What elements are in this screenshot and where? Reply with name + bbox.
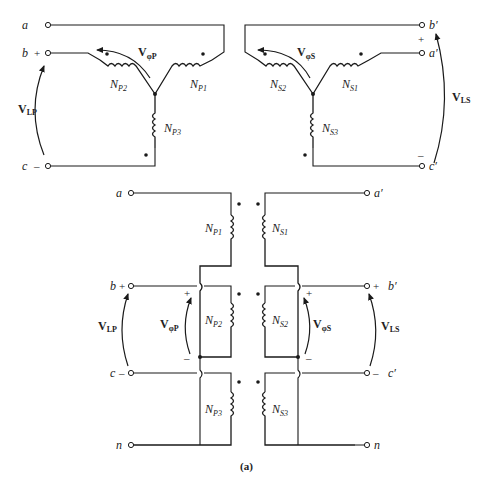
svg-text:+: + <box>184 287 190 299</box>
terminal-a-prime <box>419 50 424 55</box>
svg-text:c′: c′ <box>388 366 396 380</box>
line-voltage-label: VLS <box>452 90 471 105</box>
svg-text:–: – <box>118 367 125 379</box>
svg-text:NP1: NP1 <box>204 221 222 237</box>
line-voltage-label: VLP <box>18 102 37 117</box>
svg-text:NS1: NS1 <box>271 221 288 237</box>
polarity-dot <box>144 153 148 157</box>
phase-voltage-label: VφP <box>138 45 157 61</box>
svg-text:+: + <box>373 280 379 292</box>
svg-text:a′: a′ <box>374 186 383 200</box>
svg-text:VφS: VφS <box>313 317 332 333</box>
terminal-b-prime <box>364 283 369 288</box>
svg-text:–: – <box>183 352 190 364</box>
polarity-dot <box>105 52 109 56</box>
svg-text:b′: b′ <box>388 279 397 293</box>
terminal-a-prime <box>364 190 369 195</box>
svg-text:b: b <box>110 279 116 293</box>
winding-label-ns2: NS2 <box>269 77 286 93</box>
svg-text:+: + <box>306 287 312 299</box>
svg-text:NS3: NS3 <box>271 402 288 418</box>
terminal-a <box>45 22 50 27</box>
svg-text:NP3: NP3 <box>204 402 222 418</box>
polarity-dot <box>201 52 205 56</box>
terminal-label-a: a <box>22 18 28 32</box>
terminal-n <box>128 442 133 447</box>
svg-text:c: c <box>110 366 116 380</box>
terminal-c <box>45 163 50 168</box>
winding-label-np3: NP3 <box>163 121 181 137</box>
svg-text:n: n <box>374 438 380 452</box>
terminal-label-c-prime: c′ <box>429 159 437 173</box>
svg-text:VLS: VLS <box>381 319 400 334</box>
svg-text:+: + <box>119 280 125 292</box>
neutral-node <box>311 92 315 96</box>
terminal-label-c: c <box>22 159 28 173</box>
svg-text:n: n <box>116 438 122 452</box>
svg-text:–: – <box>417 149 424 161</box>
terminal-b <box>45 50 50 55</box>
winding-label-np2: NP2 <box>109 77 127 93</box>
svg-text:VφP: VφP <box>160 317 179 333</box>
svg-text:VLP: VLP <box>98 319 117 334</box>
svg-text:NP2: NP2 <box>204 313 222 329</box>
terminal-b-prime <box>419 22 424 27</box>
polarity-dot <box>359 52 363 56</box>
winding-schematic: a b + c – n a′ + b′ – c′ n NP1 NS1 NP2 N… <box>98 186 400 473</box>
primary-wye: a b + c – NP2 NP1 NP3 VφP VLP <box>18 18 224 173</box>
svg-text:+: + <box>418 33 424 45</box>
phase-voltage-label: VφS <box>297 45 316 61</box>
svg-text:NS2: NS2 <box>271 313 288 329</box>
svg-text:a: a <box>116 186 122 200</box>
neutral-node <box>153 92 157 96</box>
secondary-wye: b′ + a′ c′ – NS2 NS1 NS3 VφS VLS <box>245 18 471 173</box>
terminal-n-secondary <box>364 442 369 447</box>
terminal-b <box>128 283 133 288</box>
terminal-c-prime <box>419 163 424 168</box>
winding-label-ns1: NS1 <box>341 77 358 93</box>
terminal-label-b-prime: b′ <box>429 18 438 32</box>
terminal-c-prime <box>364 370 369 375</box>
terminal-label-a-prime: a′ <box>429 46 438 60</box>
polarity-dot <box>263 52 267 56</box>
terminal-c <box>128 370 133 375</box>
winding-label-ns3: NS3 <box>321 121 338 137</box>
polarity-dot <box>303 153 307 157</box>
terminal-label-b: b <box>22 46 28 60</box>
figure-caption: (a) <box>240 460 253 473</box>
transformer-diagram: a b + c – NP2 NP1 NP3 VφP VLP b′ + a′ c′… <box>0 0 488 489</box>
terminal-a <box>128 190 133 195</box>
svg-text:–: – <box>33 160 40 172</box>
winding-label-np1: NP1 <box>189 77 207 93</box>
svg-text:+: + <box>34 47 40 59</box>
svg-text:–: – <box>372 367 379 379</box>
svg-text:–: – <box>305 352 312 364</box>
